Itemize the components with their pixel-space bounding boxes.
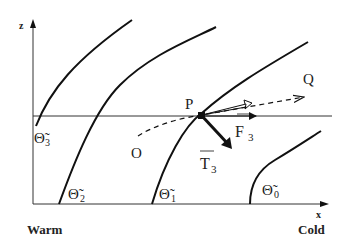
z-axis	[30, 19, 36, 204]
vector-f3-label: F 3	[235, 114, 254, 143]
theta1-label: Θ̃ 1	[159, 186, 176, 204]
x-axis-label: x	[316, 209, 321, 220]
isentrope-theta1	[152, 42, 308, 204]
vector-t3-arrow	[202, 116, 228, 144]
point-o-label: O	[131, 145, 142, 161]
theta3-label: Θ̃ 3	[34, 130, 50, 148]
svg-text:2: 2	[80, 193, 85, 204]
z-axis-label: z	[19, 20, 24, 31]
diagram-svg: z x Warm Cold P O Q F 3 T 3 Θ̃ 3 Θ̃ 2 Θ̃…	[0, 0, 348, 251]
warm-label: Warm	[27, 222, 63, 237]
point-p-label: P	[185, 96, 193, 112]
svg-text:0: 0	[274, 189, 279, 200]
svg-text:3: 3	[45, 137, 50, 148]
svg-text:3: 3	[248, 131, 254, 143]
theta0-label: Θ̃ 0	[262, 182, 279, 200]
svg-text:3: 3	[211, 163, 217, 175]
point-q-label: Q	[303, 71, 314, 87]
point-p-marker	[198, 112, 205, 119]
cold-label: Cold	[298, 222, 326, 237]
svg-text:T: T	[200, 155, 210, 172]
isentrope-theta0	[250, 131, 321, 204]
theta2-label: Θ̃ 2	[68, 186, 85, 204]
svg-text:1: 1	[171, 193, 176, 204]
vector-t3-label: T 3	[200, 151, 217, 175]
isentrope-theta3	[36, 20, 132, 126]
svg-text:F: F	[235, 123, 244, 140]
isentrope-diagram: z x Warm Cold P O Q F 3 T 3 Θ̃ 3 Θ̃ 2 Θ̃…	[0, 0, 348, 251]
